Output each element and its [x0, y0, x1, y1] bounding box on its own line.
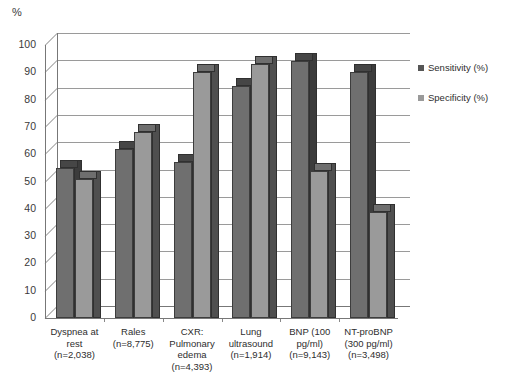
x-axis-category-label: BNP (100pg/ml)(n=9,143)	[278, 326, 341, 361]
bar-face	[369, 212, 387, 318]
bar-top	[60, 160, 78, 168]
y-tick-label: 90	[8, 66, 36, 76]
bar-chart: % 1009080706050403020100 Dyspnea atrest(…	[0, 0, 505, 385]
legend-swatch-icon	[418, 95, 424, 101]
bar-specificity	[251, 64, 269, 318]
legend-item-specificity[interactable]: Specificity (%)	[418, 92, 488, 103]
x-label-line: (n=8,775)	[102, 338, 165, 350]
bar-specificity	[134, 132, 152, 318]
x-label-line: (n=2,038)	[43, 349, 106, 361]
bar-side	[152, 124, 160, 318]
bar-face	[232, 86, 250, 318]
grid-connector	[45, 142, 58, 155]
y-tick-label: 70	[8, 121, 36, 131]
grid-connector	[45, 33, 58, 46]
legend-label: Specificity (%)	[428, 92, 488, 103]
x-label-line: Lung	[220, 326, 283, 338]
bar-face	[350, 72, 368, 318]
x-label-line: Rales	[102, 326, 165, 338]
bar-top	[138, 124, 156, 132]
legend-swatch-icon	[418, 65, 424, 71]
x-label-line: (n=1,914)	[220, 349, 283, 361]
bar-top	[354, 64, 372, 72]
bar-face	[251, 64, 269, 318]
x-label-line: (n=4,393)	[161, 361, 224, 373]
y-tick-label: 100	[8, 39, 36, 49]
x-label-line: BNP (100	[278, 326, 341, 338]
bar-sensitivity	[56, 168, 74, 318]
x-label-line: edema	[161, 349, 224, 361]
bar-side	[387, 204, 395, 318]
x-label-line: ultrasound	[220, 338, 283, 350]
bar-face	[193, 72, 211, 318]
grid-connector	[45, 60, 58, 73]
bar-specificity	[75, 179, 93, 318]
bar-specificity	[310, 171, 328, 318]
x-label-line: pg/ml)	[278, 338, 341, 350]
grid-connector	[45, 115, 58, 128]
bar-face	[134, 132, 152, 318]
x-label-line: NT-proBNP	[337, 326, 400, 338]
x-axis-line	[45, 318, 398, 319]
bar-face	[291, 61, 309, 318]
bar-side	[93, 171, 101, 318]
x-axis-category-label: Dyspnea atrest(n=2,038)	[43, 326, 106, 361]
y-tick-label: 50	[8, 176, 36, 186]
bar-sensitivity	[232, 86, 250, 318]
x-label-line: Pulmonary	[161, 338, 224, 350]
bar-sensitivity	[350, 72, 368, 318]
x-axis-category-label: Lungultrasound(n=1,914)	[220, 326, 283, 361]
y-tick-label: 20	[8, 257, 36, 267]
x-label-line: rest	[43, 338, 106, 350]
bar-top	[295, 53, 313, 61]
grid-line	[57, 33, 410, 34]
bar-top	[314, 163, 332, 171]
legend: Sensitivity (%) Specificity (%)	[418, 62, 488, 122]
bar-top	[79, 171, 97, 179]
y-tick-label: 60	[8, 148, 36, 158]
x-label-line: Dyspnea at	[43, 326, 106, 338]
bar-side	[211, 64, 219, 318]
bar-face	[115, 149, 133, 318]
x-label-line: (300 pg/ml)	[337, 338, 400, 350]
legend-label: Sensitivity (%)	[428, 62, 488, 73]
bar-sensitivity	[174, 162, 192, 318]
y-tick-label: 40	[8, 203, 36, 213]
bar-sensitivity	[291, 61, 309, 318]
grid-line	[57, 60, 410, 61]
grid-connector	[45, 88, 58, 101]
y-tick-label: 0	[8, 312, 36, 322]
y-tick-label: 10	[8, 285, 36, 295]
y-axis-line	[45, 45, 46, 318]
bar-specificity	[369, 212, 387, 318]
x-axis-category-label: NT-proBNP(300 pg/ml)(n=3,498)	[337, 326, 400, 361]
x-label-line: CXR:	[161, 326, 224, 338]
bar-face	[56, 168, 74, 318]
x-axis-category-label: Rales(n=8,775)	[102, 326, 165, 349]
bar-face	[310, 171, 328, 318]
bar-specificity	[193, 72, 211, 318]
bar-side	[269, 56, 277, 318]
bar-top	[255, 56, 273, 64]
x-label-line: (n=9,143)	[278, 349, 341, 361]
y-tick-label: 80	[8, 94, 36, 104]
bar-face	[174, 162, 192, 318]
plot-area: 1009080706050403020100 Dyspnea atrest(n=…	[0, 0, 505, 385]
bar-top	[373, 204, 391, 212]
x-label-line: (n=3,498)	[337, 349, 400, 361]
bar-top	[197, 64, 215, 72]
bar-face	[75, 179, 93, 318]
x-axis-category-label: CXR:Pulmonaryedema(n=4,393)	[161, 326, 224, 372]
legend-item-sensitivity[interactable]: Sensitivity (%)	[418, 62, 488, 73]
y-tick-label: 30	[8, 230, 36, 240]
bar-side	[328, 163, 336, 318]
bar-sensitivity	[115, 149, 133, 318]
